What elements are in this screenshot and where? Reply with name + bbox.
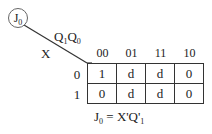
kmap-cell: d [146, 84, 175, 104]
kmap-row: 0 d d 0 [88, 84, 204, 104]
column-header: 00 [88, 46, 117, 61]
kmap-cell: 1 [88, 64, 117, 84]
kmap-cell: 0 [88, 84, 117, 104]
row-variable-label: X [41, 47, 50, 60]
column-variables-label: Q1Q0 [54, 30, 81, 48]
row-header: 0 [72, 67, 82, 83]
kmap-cell: 0 [175, 84, 204, 104]
equation: J0 = X'Q'1 [94, 110, 144, 128]
row-header: 1 [72, 87, 82, 103]
kmap-cell: d [146, 64, 175, 84]
column-header: 10 [175, 46, 204, 61]
kmap-cell: d [117, 84, 146, 104]
output-label-circle: J0 [8, 8, 28, 28]
kmap-cell: 0 [175, 64, 204, 84]
column-header: 11 [146, 46, 175, 61]
karnaugh-map: 1 d d 0 0 d d 0 [87, 63, 204, 104]
column-header: 01 [117, 46, 146, 61]
kmap-row: 1 d d 0 [88, 64, 204, 84]
kmap-cell: d [117, 64, 146, 84]
